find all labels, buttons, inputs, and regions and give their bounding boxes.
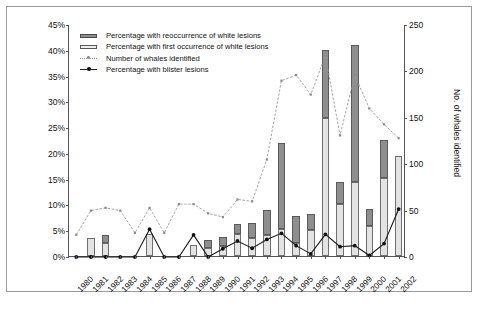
legend-label: Percentage with blister lesions <box>106 64 209 75</box>
whales-point <box>339 134 341 136</box>
y-tick-mark-right <box>404 257 407 258</box>
legend-item-reoccurrence: Percentage with reoccurrence of white le… <box>78 30 269 41</box>
x-tick-mark <box>120 256 121 259</box>
whales-point <box>119 210 121 212</box>
y-tick-label-left: 15% <box>48 175 65 185</box>
whales-point <box>163 232 165 234</box>
y-tick-label-right: 50 <box>409 206 418 216</box>
x-tick-mark <box>164 256 165 259</box>
legend-label: Number of whales identified <box>106 53 200 64</box>
x-tick-mark <box>281 256 282 259</box>
whales-point <box>354 74 356 76</box>
x-tick-mark <box>238 256 239 259</box>
whales-point <box>90 210 92 212</box>
chart-figure: Percentage of identified whales with les… <box>0 0 482 309</box>
y-tick-label-right: 0 <box>409 252 414 262</box>
y-tick-mark-left <box>66 257 69 258</box>
blister-point <box>250 246 254 250</box>
y-tick-label-left: 20% <box>48 149 65 159</box>
y-tick-label-left: 40% <box>48 46 65 56</box>
x-tick-mark <box>311 256 312 259</box>
x-tick-mark <box>223 256 224 259</box>
y-tick-label-right: 100 <box>409 159 423 169</box>
y-tick-label-right: 150 <box>409 113 423 123</box>
whales-point <box>134 232 136 234</box>
legend-label: Percentage with first occurrence of whit… <box>106 41 269 52</box>
whales-line-icon <box>78 53 100 63</box>
x-tick-mark <box>252 256 253 259</box>
blister-point <box>382 242 386 246</box>
whales-point <box>324 55 326 57</box>
y-tick-label-left: 0% <box>53 252 65 262</box>
y-tick-label-right: 200 <box>409 66 423 76</box>
legend-item-blister-lesions: Percentage with blister lesions <box>78 64 269 75</box>
blister-point <box>148 227 152 231</box>
whales-point <box>222 216 224 218</box>
whales-identified-markers <box>75 55 400 236</box>
x-tick-mark <box>384 256 385 259</box>
blister-point <box>280 231 284 235</box>
whales-point <box>295 74 297 76</box>
whales-identified-line <box>76 56 398 235</box>
whales-point <box>251 200 253 202</box>
whales-point <box>236 198 238 200</box>
legend-label: Percentage with reoccurrence of white le… <box>106 30 261 41</box>
y-axis-right-title: No. of whales identified <box>452 38 462 228</box>
whales-point <box>383 123 385 125</box>
y-tick-label-left: 10% <box>48 200 65 210</box>
reoccurrence-swatch-icon <box>78 31 100 41</box>
blister-point <box>221 247 225 251</box>
x-tick-mark <box>369 256 370 259</box>
blister-lesions-line <box>76 209 398 257</box>
legend-item-first-occurrence: Percentage with first occurrence of whit… <box>78 41 269 52</box>
legend-item-whales-identified: Number of whales identified <box>78 53 269 64</box>
x-tick-mark <box>208 256 209 259</box>
x-tick-mark <box>106 256 107 259</box>
whales-point <box>310 94 312 96</box>
x-tick-mark <box>91 256 92 259</box>
blister-point <box>397 207 401 211</box>
blister-point <box>265 238 269 242</box>
blister-point <box>236 239 240 243</box>
x-tick-mark <box>296 256 297 259</box>
blister-point <box>294 244 298 248</box>
x-tick-mark <box>355 256 356 259</box>
x-tick-mark <box>135 256 136 259</box>
y-tick-label-left: 25% <box>48 123 65 133</box>
x-tick-mark <box>340 256 341 259</box>
whales-point <box>280 80 282 82</box>
whales-point <box>75 234 77 236</box>
y-tick-label-left: 5% <box>53 226 65 236</box>
whales-point <box>207 212 209 214</box>
y-tick-label-left: 35% <box>48 72 65 82</box>
whales-point <box>192 203 194 205</box>
chart-legend: Percentage with reoccurrence of white le… <box>78 30 269 76</box>
x-tick-mark <box>267 256 268 259</box>
blister-line-icon <box>78 65 100 75</box>
y-tick-label-right: 250 <box>409 20 423 30</box>
whales-point <box>148 207 150 209</box>
whales-point <box>105 207 107 209</box>
x-tick-mark <box>76 256 77 259</box>
whales-point <box>266 158 268 160</box>
x-tick-mark <box>325 256 326 259</box>
x-tick-mark <box>179 256 180 259</box>
x-tick-mark <box>150 256 151 259</box>
first-occurrence-swatch-icon <box>78 42 100 52</box>
whales-point <box>398 137 400 139</box>
whales-point <box>178 203 180 205</box>
x-tick-mark <box>399 256 400 259</box>
blister-point <box>324 232 328 236</box>
whales-point <box>368 107 370 109</box>
x-tick-mark <box>194 256 195 259</box>
blister-point <box>338 245 342 249</box>
y-tick-label-left: 30% <box>48 97 65 107</box>
blister-point <box>353 244 357 248</box>
blister-point <box>192 233 196 237</box>
y-tick-label-left: 45% <box>48 20 65 30</box>
